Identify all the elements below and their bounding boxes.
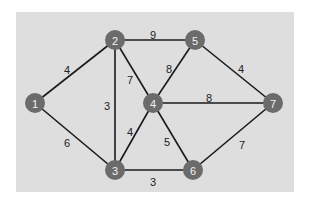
edge-weight-label: 9: [150, 29, 156, 41]
edge-6-7: [193, 103, 273, 170]
edge-2-4: [115, 40, 153, 103]
edge-weight-label: 4: [238, 63, 244, 75]
edge-4-3: [115, 103, 153, 170]
node-6: 6: [183, 160, 203, 180]
graph-canvas: 469738484537 1234567: [0, 0, 309, 203]
node-1: 1: [25, 93, 45, 113]
edge-1-2: [35, 40, 115, 103]
edge-weight-label: 8: [166, 63, 172, 75]
node-label: 1: [32, 98, 38, 110]
node-4: 4: [143, 93, 163, 113]
edge-weight-label: 5: [164, 136, 170, 148]
edge-weight-label: 7: [127, 74, 133, 86]
node-label: 6: [190, 165, 196, 177]
edge-weight-label: 7: [239, 139, 245, 151]
node-label: 4: [150, 98, 156, 110]
edge-4-6: [153, 103, 193, 170]
edge-weight-label: 3: [150, 176, 156, 188]
node-5: 5: [185, 30, 205, 50]
edge-weight-label: 6: [64, 137, 70, 149]
node-label: 7: [270, 98, 276, 110]
edge-weight-label: 8: [206, 92, 212, 104]
node-3: 3: [105, 160, 125, 180]
edge-weight-label: 4: [127, 126, 133, 138]
nodes-layer: 1234567: [25, 30, 283, 180]
node-label: 5: [192, 35, 198, 47]
node-label: 3: [112, 165, 118, 177]
edge-1-3: [35, 103, 115, 170]
node-7: 7: [263, 93, 283, 113]
node-label: 2: [112, 35, 118, 47]
edge-5-4: [153, 40, 195, 103]
node-2: 2: [105, 30, 125, 50]
edge-weight-label: 4: [64, 64, 70, 76]
edge-weight-label: 3: [104, 100, 110, 112]
